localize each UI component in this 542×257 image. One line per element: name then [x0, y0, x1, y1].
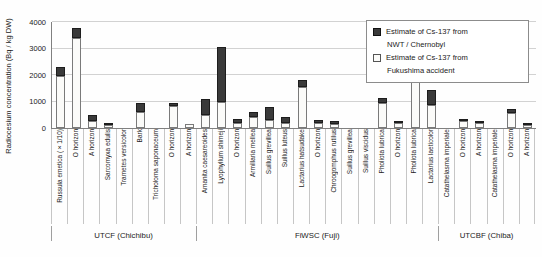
category-label: Lactarius laeticolor [427, 129, 435, 183]
segment-nwt-chernobyl [459, 119, 468, 122]
segment-fukushima [314, 123, 323, 128]
bar-suillus-luteus [281, 117, 290, 128]
segment-nwt-chernobyl [394, 121, 403, 124]
category-label: Lactarius hatsudake [298, 129, 306, 187]
category-label: Bark [136, 129, 144, 142]
segment-fukushima [88, 121, 97, 128]
legend-label-line2: NWT / Chernobyl [373, 38, 522, 51]
segment-nwt-chernobyl [378, 98, 387, 103]
segment-fukushima [378, 103, 387, 128]
segment-fukushima [169, 106, 178, 128]
bar-armillaria-mellea [249, 112, 258, 128]
segment-fukushima [201, 115, 210, 128]
segment-nwt-chernobyl [427, 90, 436, 105]
segment-nwt-chernobyl [88, 115, 97, 122]
category-cell: Amanita caesareoides [196, 129, 212, 224]
segment-fukushima [411, 82, 420, 128]
segment-nwt-chernobyl [507, 109, 516, 113]
segment-nwt-chernobyl [169, 103, 178, 106]
bar-o-horizon [394, 121, 403, 128]
segment-nwt-chernobyl [298, 80, 307, 87]
group-label: UTCF (Chichibu) [51, 231, 196, 243]
category-cell: Bark [132, 129, 148, 224]
segment-fukushima [427, 105, 436, 128]
category-cell: O horizon [228, 129, 244, 224]
y-tick-label: 2000 [16, 71, 46, 80]
segment-fukushima [265, 120, 274, 128]
category-cell: O horizon [454, 129, 470, 224]
group-label: FiWSC (Fuji) [196, 231, 438, 243]
group-label: UTCBF (Chiba) [438, 231, 535, 243]
category-cell: O horizon [67, 129, 83, 224]
category-label: A horizon [88, 129, 96, 156]
category-label: A horizon [185, 129, 193, 156]
bar-sarcomyxa-edulis [104, 124, 113, 129]
segment-nwt-chernobyl [314, 120, 323, 123]
category-label: Catathelasma imperiale [443, 129, 451, 197]
category-label: O horizon [394, 129, 402, 157]
segment-fukushima [475, 123, 484, 128]
category-label: O horizon [459, 129, 467, 157]
bar-a-horizon [88, 115, 97, 128]
category-cell: Catathelasma imperiale [438, 129, 454, 224]
bar-suillus-grevillea [265, 107, 274, 128]
chart-canvas: Radiocesium concentration (Bq / kg DW) E… [0, 0, 542, 257]
category-cell: Russula emetica (×1/10) [51, 129, 67, 224]
segment-nwt-chernobyl [233, 119, 242, 123]
category-cell: Pholiota lubrica [374, 129, 390, 224]
segment-fukushima [233, 123, 242, 128]
segment-fukushima [298, 87, 307, 128]
bar-o-horizon [169, 103, 178, 128]
segment-nwt-chernobyl [330, 121, 339, 124]
category-label: O horizon [72, 129, 80, 157]
bar-lactarius-laeticolor [427, 90, 436, 128]
category-cell: O horizon [390, 129, 406, 224]
category-label: Suillus viscidus [362, 129, 370, 173]
bar-lactarius-hatsudake [298, 80, 307, 128]
y-tick-label: 0 [16, 124, 46, 133]
category-label: Pholiota lubrica [378, 129, 386, 173]
category-label: Lyophyllum shimeji [217, 129, 225, 184]
category-label: Suillus grevillea [346, 129, 354, 174]
category-label: Russula emetica (×1/10) [56, 129, 64, 203]
bar-russula-emetica-1-10- [56, 67, 65, 128]
segment-nwt-chernobyl [72, 28, 81, 38]
y-tick-label: 1000 [16, 97, 46, 106]
bar-amanita-caesareoides [201, 99, 210, 128]
category-label: Suillus grevillea [265, 129, 273, 174]
category-label: O horizon [314, 129, 322, 157]
y-axis-title: Radiocesium concentration (Bq / kg DW) [4, 16, 14, 156]
segment-fukushima [459, 121, 468, 128]
category-cell: Suillus luteus [277, 129, 293, 224]
category-cell: O horizon [164, 129, 180, 224]
legend-swatch-chernobyl-icon [373, 28, 381, 36]
segment-fukushima [330, 124, 339, 128]
segment-fukushima [56, 76, 65, 128]
bar-chroogomphus-rutilus [330, 121, 339, 128]
category-cell: Catathelasma imperiale [487, 129, 503, 224]
category-cell: Lyophyllum shimeji [212, 129, 228, 224]
category-cell: A horizon [519, 129, 535, 224]
category-cell: Tricholoma saponaceum [148, 129, 164, 224]
category-label: Suillus luteus [281, 129, 289, 167]
bar-o-horizon [459, 119, 468, 128]
category-cell: O horizon [309, 129, 325, 224]
segment-fukushima [217, 102, 226, 129]
legend-label-line2: Fukushima accident [373, 64, 522, 77]
category-label: Sarcomyxa edulis [104, 129, 112, 180]
bar-a-horizon [523, 124, 532, 128]
legend-label: Estimate of Cs-137 from [386, 27, 468, 36]
legend: Estimate of Cs-137 from NWT / Chernobyl … [366, 20, 529, 83]
category-label: Tricholoma saponaceum [152, 129, 160, 200]
category-label: Pholiota lubrica [410, 129, 418, 173]
category-cell: Suillus grevillea [261, 129, 277, 224]
y-tick-label: 4000 [16, 18, 46, 27]
bar-bark [136, 103, 145, 128]
category-label: Chroogomphus rutilus [330, 129, 338, 193]
category-label: Amanita caesareoides [201, 129, 209, 193]
bar-o-horizon [507, 109, 516, 128]
category-label: A horizon [475, 129, 483, 156]
legend-item-chernobyl: Estimate of Cs-137 from [373, 25, 522, 38]
category-cell: O horizon [503, 129, 519, 224]
segment-nwt-chernobyl [265, 107, 274, 120]
